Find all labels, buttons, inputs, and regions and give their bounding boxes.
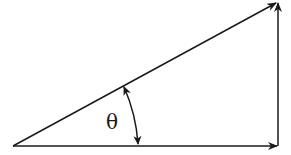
angle-arc	[124, 87, 138, 144]
angle-label-theta: θ	[106, 110, 118, 134]
hypotenuse-vector	[13, 3, 276, 146]
vector-diagram: θ	[0, 0, 291, 155]
